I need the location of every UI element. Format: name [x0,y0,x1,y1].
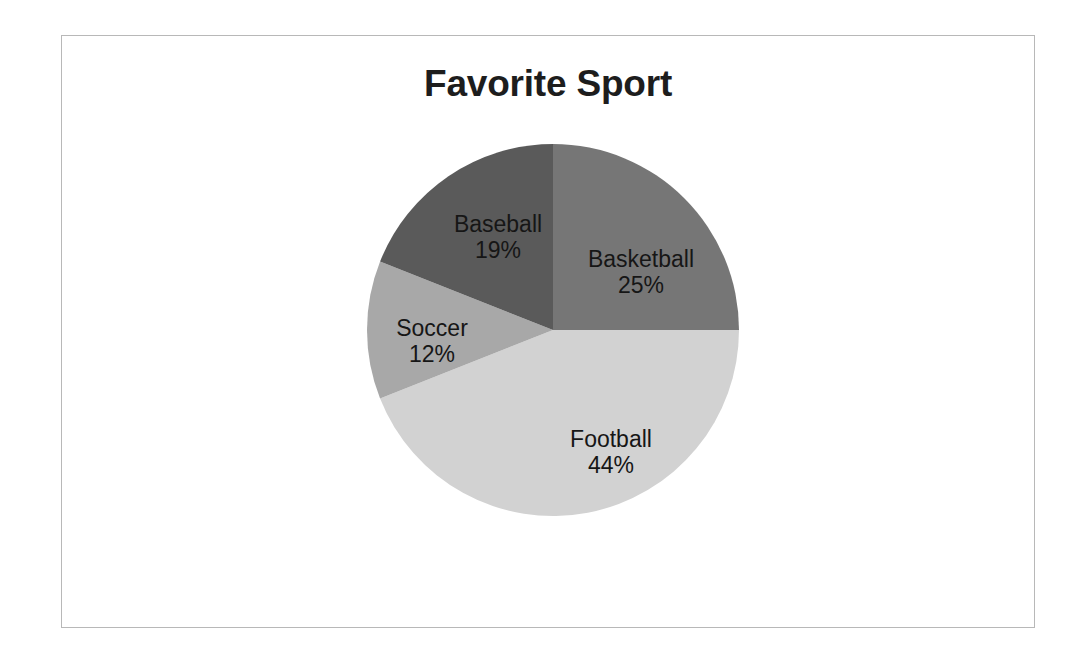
pie-chart: Basketball 25% Football 44% Soccer 12% B… [366,143,740,517]
chart-frame: Favorite Sport Basketball 25% Football 4… [61,35,1035,628]
pie-svg [366,143,740,517]
pie-slice-basketball[interactable] [553,144,739,330]
chart-title: Favorite Sport [62,63,1034,105]
